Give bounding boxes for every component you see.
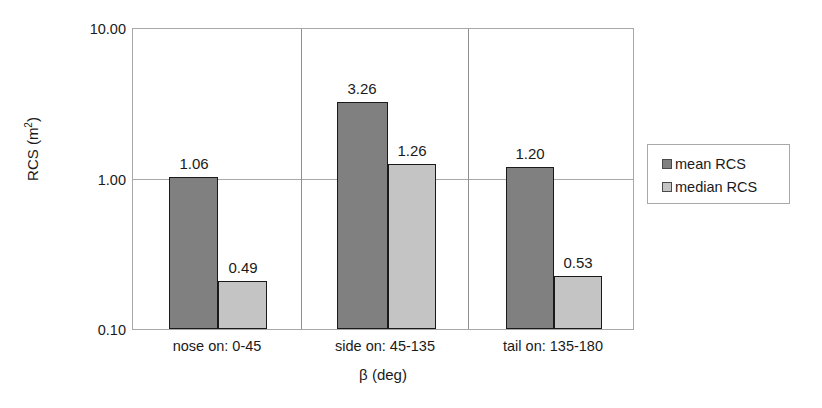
- y-tick-label-10: 10.00: [68, 21, 126, 37]
- legend-swatch-icon-median-rcs: [662, 182, 672, 192]
- legend-item-median-rcs: median RCS: [662, 175, 789, 198]
- bar-mean-side-on: [337, 102, 388, 329]
- rcs-bar-chart-figure: RCS (m2) 10.00 1.00 0.10 1.06 0.49 3.26 …: [0, 0, 822, 408]
- y-axis-label-exponent: 2: [23, 122, 34, 128]
- category-separator-2: [468, 29, 469, 329]
- legend-item-mean-rcs: mean RCS: [662, 152, 789, 175]
- bar-median-tail-on: [554, 276, 602, 329]
- chart-legend: mean RCS median RCS: [647, 144, 790, 204]
- bar-median-nose-on: [218, 281, 267, 329]
- y-axis-label-text: RCS (m: [24, 128, 41, 181]
- bar-mean-tail-on: [506, 167, 554, 329]
- legend-swatch-icon-mean-rcs: [662, 159, 672, 169]
- value-label-mean-tail-on: 1.20: [515, 145, 544, 162]
- legend-label-median-rcs: median RCS: [675, 179, 757, 195]
- bar-mean-nose-on: [169, 177, 218, 329]
- value-label-mean-side-on: 3.26: [347, 80, 376, 97]
- x-category-label-nose-on: nose on: 0-45: [173, 338, 262, 354]
- category-separator-1: [301, 29, 302, 329]
- bar-median-side-on: [388, 164, 436, 329]
- x-category-label-tail-on: tail on: 135-180: [503, 338, 603, 354]
- value-label-median-side-on: 1.26: [397, 142, 426, 159]
- y-tick-label-1: 1.00: [68, 172, 126, 188]
- value-label-median-nose-on: 0.49: [228, 259, 257, 276]
- y-axis-tick-labels: 10.00 1.00 0.10: [64, 0, 126, 408]
- y-tick-label-0-1: 0.10: [68, 322, 126, 338]
- value-label-median-tail-on: 0.53: [563, 254, 592, 271]
- x-category-label-side-on: side on: 45-135: [335, 338, 435, 354]
- y-axis-label-tail: ): [24, 117, 41, 122]
- value-label-mean-nose-on: 1.06: [179, 155, 208, 172]
- x-axis-label: β (deg): [132, 366, 634, 383]
- legend-label-mean-rcs: mean RCS: [675, 156, 746, 172]
- y-axis-label: RCS (m2): [23, 79, 41, 219]
- plot-area: 1.06 0.49 3.26 1.26 1.20 0.53: [132, 28, 634, 330]
